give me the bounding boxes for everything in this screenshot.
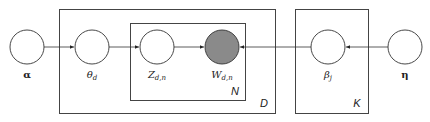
node-theta [75,30,109,64]
plate-label-N: N [231,85,239,97]
label-w: Wd,n [211,69,233,82]
node-beta [311,30,345,64]
plate-label-K: K [353,97,361,109]
plate-label-D: D [260,97,268,109]
label-beta: βj [323,69,333,82]
label-alpha: α [23,69,31,80]
label-z: Zd,n [147,69,167,82]
plate-diagram: α θd Zd,n Wd,n βj η N D K [0,0,430,122]
label-theta: θd [87,69,98,82]
node-w-observed [205,30,239,64]
node-eta [388,30,422,64]
node-alpha [10,30,44,64]
label-eta: η [401,69,408,80]
node-z [140,30,174,64]
